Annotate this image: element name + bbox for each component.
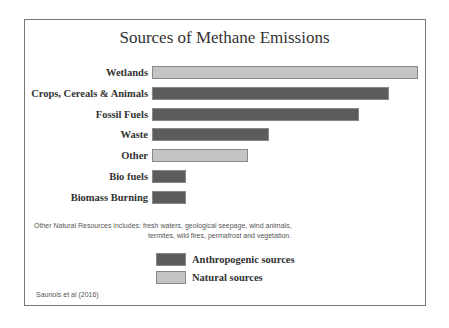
bar-label: Waste: [121, 128, 148, 142]
bar-row: Fossil Fuels: [0, 108, 449, 122]
bar: [152, 87, 389, 100]
bar: [152, 108, 359, 121]
legend-swatch-anthropogenic: [156, 253, 186, 266]
bar-label: Wetlands: [106, 66, 148, 80]
bar-row: Other: [0, 149, 449, 163]
legend-label-natural: Natural sources: [192, 271, 263, 284]
bar-label: Crops, Cereals & Animals: [31, 87, 148, 101]
source-citation: Saunois et al (2016): [36, 291, 99, 298]
bar-label: Fossil Fuels: [96, 108, 148, 122]
bar: [152, 128, 269, 141]
note-line-2: termites, wild fires, permafrost and veg…: [148, 232, 291, 239]
bar-label: Biomass Burning: [71, 191, 148, 205]
bar: [152, 149, 248, 162]
bar-row: Biomass Burning: [0, 191, 449, 205]
note-line-1: Other Natural Resources includes: fresh …: [34, 222, 292, 229]
chart-title: Sources of Methane Emissions: [0, 28, 449, 48]
bar-label: Other: [121, 149, 148, 163]
legend-label-anthropogenic: Anthropogenic sources: [192, 253, 295, 266]
legend-swatch-natural: [156, 271, 186, 284]
bar-row: Crops, Cereals & Animals: [0, 87, 449, 101]
bar: [152, 170, 186, 183]
bar-row: Waste: [0, 128, 449, 142]
bar-label: Bio fuels: [109, 170, 148, 184]
bar: [152, 191, 186, 204]
bar-row: Wetlands: [0, 66, 449, 80]
bar: [152, 66, 418, 79]
bar-row: Bio fuels: [0, 170, 449, 184]
